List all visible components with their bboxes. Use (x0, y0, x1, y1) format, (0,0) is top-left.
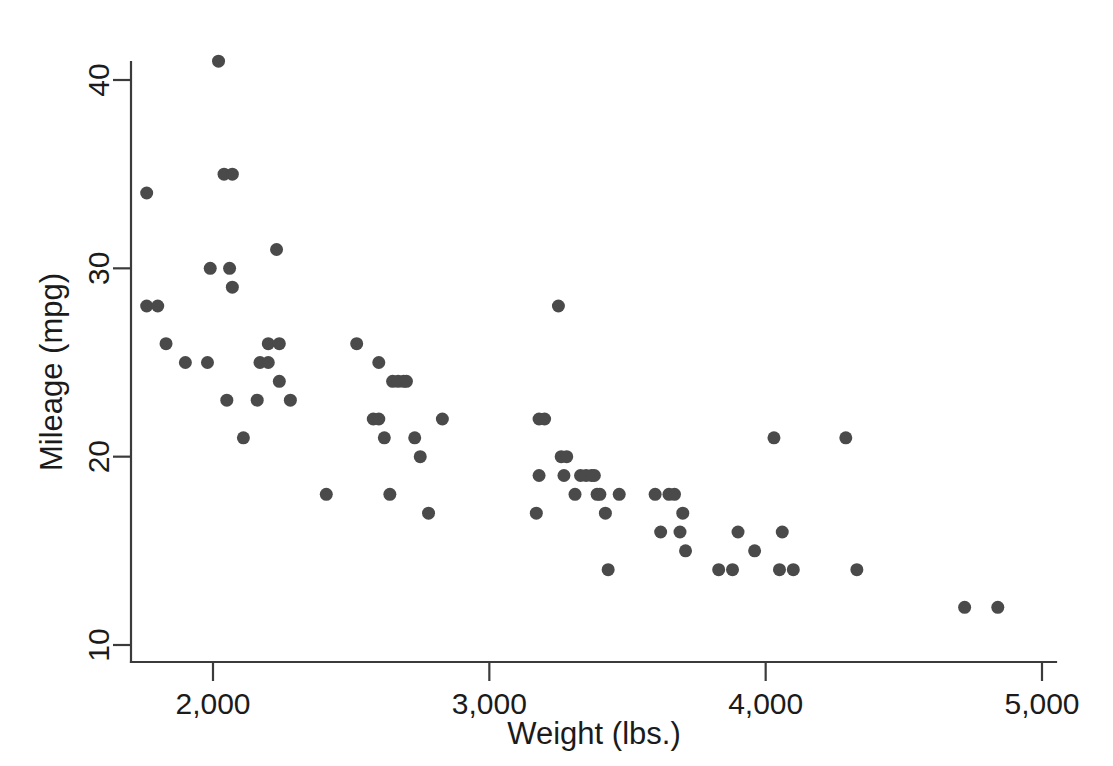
data-point (262, 356, 275, 369)
data-point (408, 431, 421, 444)
data-point (273, 337, 286, 350)
data-point (613, 488, 626, 501)
data-point (958, 601, 971, 614)
data-point (726, 563, 739, 576)
data-point (654, 526, 667, 539)
data-point (732, 526, 745, 539)
data-point (773, 563, 786, 576)
data-point (151, 300, 164, 313)
data-point (400, 375, 413, 388)
data-point (776, 526, 789, 539)
data-point (251, 394, 264, 407)
data-point (530, 507, 543, 520)
scatter-plot-figure: 10203040 2,0003,0004,0005,000 Mileage (m… (0, 0, 1113, 766)
y-axis-ticks: 10203040 (82, 63, 132, 661)
data-point (226, 168, 239, 181)
data-point (599, 507, 612, 520)
data-point (712, 563, 725, 576)
data-point (787, 563, 800, 576)
data-point (320, 488, 333, 501)
data-point (284, 394, 297, 407)
data-point (538, 413, 551, 426)
y-tick-label: 40 (82, 63, 115, 96)
x-tick-label: 5,000 (1004, 687, 1079, 720)
data-point (237, 431, 250, 444)
x-axis-title: Weight (lbs.) (507, 716, 680, 751)
data-point (991, 601, 1004, 614)
data-point (212, 55, 225, 68)
data-point (204, 262, 217, 275)
x-tick-label: 2,000 (175, 687, 250, 720)
data-point (839, 431, 852, 444)
y-tick-label: 20 (82, 440, 115, 473)
data-point (160, 337, 173, 350)
data-point (140, 187, 153, 200)
data-point (674, 526, 687, 539)
data-point (422, 507, 435, 520)
y-tick-label: 30 (82, 252, 115, 285)
data-point (201, 356, 214, 369)
data-point (560, 450, 573, 463)
data-point (588, 469, 601, 482)
y-axis-title: Mileage (mpg) (34, 273, 69, 471)
data-point (262, 337, 275, 350)
plot-canvas: 10203040 2,0003,0004,0005,000 Mileage (m… (0, 0, 1113, 766)
data-point (593, 488, 606, 501)
data-point (223, 262, 236, 275)
x-tick-label: 4,000 (728, 687, 803, 720)
y-tick-label: 10 (82, 628, 115, 661)
data-point (372, 356, 385, 369)
x-axis-ticks: 2,0003,0004,0005,000 (175, 662, 1079, 720)
data-point (179, 356, 192, 369)
data-point (557, 469, 570, 482)
data-point (767, 431, 780, 444)
data-point (436, 413, 449, 426)
data-point (552, 300, 565, 313)
data-point (226, 281, 239, 294)
data-point (668, 488, 681, 501)
data-point (350, 337, 363, 350)
data-point (383, 488, 396, 501)
data-point (602, 563, 615, 576)
data-point (273, 375, 286, 388)
data-points-layer (140, 55, 1004, 614)
data-point (676, 507, 689, 520)
data-point (850, 563, 863, 576)
data-point (414, 450, 427, 463)
data-point (372, 413, 385, 426)
data-point (569, 488, 582, 501)
data-point (220, 394, 233, 407)
data-point (748, 544, 761, 557)
data-point (378, 431, 391, 444)
data-point (679, 544, 692, 557)
data-point (270, 243, 283, 256)
data-point (649, 488, 662, 501)
data-point (533, 469, 546, 482)
